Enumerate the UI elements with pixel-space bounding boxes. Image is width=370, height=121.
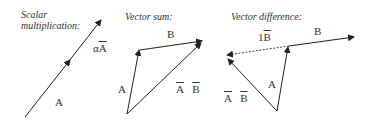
- scalar-title-line1: Scalar: [21, 9, 47, 20]
- diff-vector-a-label: A: [268, 78, 276, 90]
- negative-b-label: 1B: [258, 31, 271, 43]
- diff-vector-b-label: B: [314, 25, 321, 37]
- sum-vector-a-label: A: [118, 83, 126, 95]
- vector-sum-triangle: [127, 41, 202, 114]
- scalar-multiplication-vector: [25, 20, 101, 117]
- vector-a-label: A: [55, 96, 63, 108]
- diff-result-label: A B: [224, 92, 248, 104]
- sum-vector-b-label: B: [167, 28, 174, 40]
- sum-result-label: A B: [176, 83, 200, 95]
- vector-difference-title: Vector difference:: [231, 11, 302, 22]
- scalar-title-line2: multiplication:: [21, 20, 80, 31]
- vector-sum-title: Vector sum:: [125, 11, 173, 22]
- alpha-a-label: αA: [93, 42, 107, 54]
